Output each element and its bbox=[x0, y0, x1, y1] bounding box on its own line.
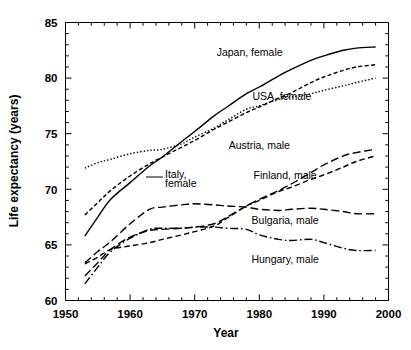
y-tick-label: 75 bbox=[45, 128, 58, 140]
x-axis-title: Year bbox=[213, 326, 239, 340]
annotation-bulgaria-male: Bulgaria, male bbox=[252, 214, 319, 226]
x-tick-label: 1980 bbox=[247, 308, 273, 320]
annotation-austria-male: Austria, male bbox=[229, 139, 290, 151]
y-tick-label: 65 bbox=[45, 239, 58, 251]
y-tick-label: 70 bbox=[45, 184, 58, 196]
x-tick-label: 1950 bbox=[53, 308, 79, 320]
annotation-usa-female: USA, female bbox=[252, 90, 311, 102]
x-tick-label: 1970 bbox=[182, 308, 208, 320]
y-tick-label: 80 bbox=[45, 72, 58, 84]
x-tick-label: 1990 bbox=[311, 308, 337, 320]
x-tick-label: 1960 bbox=[117, 308, 143, 320]
y-tick-label: 60 bbox=[45, 295, 58, 307]
annotation-italy-female-line2: female bbox=[165, 177, 197, 189]
y-tick-label: 85 bbox=[45, 17, 58, 29]
annotation-finland-male: Finland, male bbox=[254, 169, 317, 181]
life-expectancy-chart: 195019601970198019902000606570758085 Yea… bbox=[0, 0, 411, 350]
annotation-hungary-male: Hungary, male bbox=[251, 253, 319, 265]
annotation-japan-female: Japan, female bbox=[217, 46, 283, 58]
y-axis-title: Life expectancy (years) bbox=[7, 95, 21, 228]
chart-svg: 195019601970198019902000606570758085 Yea… bbox=[0, 0, 411, 350]
x-tick-label: 2000 bbox=[376, 308, 402, 320]
